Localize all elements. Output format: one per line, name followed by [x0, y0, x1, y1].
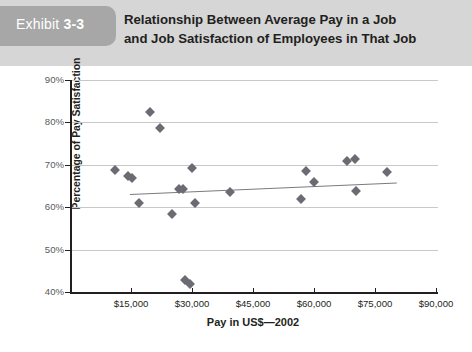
x-axis-tick-mark	[253, 288, 254, 293]
x-axis-tick-label: $15,000	[114, 298, 149, 309]
x-axis-tick-mark	[192, 288, 193, 293]
x-axis-tick-label: $90,000	[419, 298, 454, 309]
y-axis-tick-label: 70%	[16, 159, 64, 170]
y-axis-tick-label: 50%	[16, 244, 64, 255]
x-axis-tick-mark	[436, 288, 437, 293]
y-axis-tick-label: 60%	[16, 201, 64, 212]
x-axis-tick-label: $45,000	[236, 298, 271, 309]
data-point-marker	[127, 173, 137, 183]
data-point-marker	[167, 209, 177, 219]
x-axis-tick-label: $75,000	[358, 298, 393, 309]
x-axis-tick-labels: $15,000$30,000$45,000$60,000$75,000$90,0…	[70, 294, 436, 314]
data-point-marker	[134, 198, 144, 208]
chart-title-line-1: Relationship Between Average Pay in a Jo…	[124, 10, 454, 29]
x-axis-tick-label: $30,000	[175, 298, 210, 309]
gridline	[72, 207, 438, 208]
chart-title: Relationship Between Average Pay in a Jo…	[124, 10, 454, 48]
plot-area	[70, 80, 438, 294]
data-point-marker	[350, 154, 360, 164]
gridline	[72, 250, 438, 251]
x-axis-tick-mark	[375, 288, 376, 293]
y-axis-tick-label: 90%	[16, 74, 64, 85]
x-axis-tick-mark	[131, 288, 132, 293]
data-point-marker	[225, 187, 235, 197]
exhibit-number-badge: Exhibit3-3	[0, 6, 116, 46]
gridline	[72, 122, 438, 123]
chart-title-line-2: and Job Satisfaction of Employees in Tha…	[124, 29, 454, 48]
x-axis-tick-mark	[314, 288, 315, 293]
x-axis-title: Pay in US$—2002	[70, 316, 436, 328]
data-point-marker	[146, 107, 156, 117]
plot-canvas	[72, 80, 438, 292]
data-point-marker	[351, 186, 361, 196]
exhibit-number: 3-3	[63, 16, 84, 32]
y-axis-tick-label: 80%	[16, 116, 64, 127]
gridline	[72, 80, 438, 81]
y-axis-tick-label: 40%	[16, 286, 64, 297]
data-point-marker	[110, 165, 120, 175]
x-axis-tick-label: $60,000	[297, 298, 332, 309]
data-point-marker	[301, 166, 311, 176]
data-point-marker	[155, 123, 165, 133]
exhibit-label: Exhibit	[16, 16, 59, 32]
data-point-marker	[296, 194, 306, 204]
exhibit-badge-text: Exhibit3-3	[16, 16, 84, 32]
data-point-marker	[382, 167, 392, 177]
gridline	[72, 165, 438, 166]
scatter-chart: Percentage of Pay Satisfaction 40%50%60%…	[0, 66, 472, 352]
